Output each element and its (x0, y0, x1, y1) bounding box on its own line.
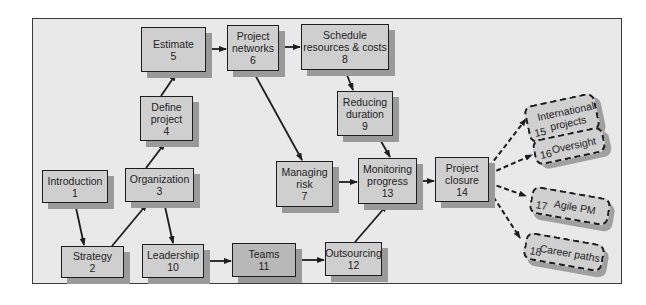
node-monitoring-progress: Monitoring progress 13 (358, 158, 417, 204)
node-label: Teams (249, 248, 280, 260)
node-label: Monitoring progress (359, 163, 416, 187)
node-number: 17 (535, 198, 549, 212)
node-label: Estimate (153, 38, 194, 50)
node-number: 11 (259, 260, 270, 272)
node-number: 4 (164, 125, 170, 137)
node-label: Project networks (228, 30, 278, 54)
node-label: Project closure (436, 162, 488, 186)
node-number: 8 (342, 53, 348, 65)
node-define-project: Define project 4 (140, 96, 193, 141)
node-number: 18 (529, 244, 543, 258)
node-project-closure: Project closure 14 (435, 157, 489, 202)
node-label: Leadership (147, 249, 199, 261)
node-organization: Organization 3 (125, 168, 194, 202)
node-strategy: Strategy 2 (61, 246, 124, 278)
node-introduction: Introduction 1 (42, 170, 108, 203)
node-number: 6 (250, 54, 256, 66)
node-leadership: Leadership 10 (142, 244, 204, 278)
node-number: 2 (90, 262, 96, 274)
node-number: 16 (539, 147, 553, 161)
node-label: Reducing duration (338, 96, 392, 120)
node-label: Outsourcing (325, 247, 382, 259)
node-managing-risk: Managing risk 7 (276, 161, 333, 207)
node-number: 5 (171, 50, 177, 62)
node-label: Introduction (48, 175, 103, 187)
node-number: 7 (302, 190, 308, 202)
node-label: Managing risk (277, 166, 332, 190)
node-number: 14 (456, 186, 468, 198)
node-number: 10 (167, 261, 179, 273)
node-teams: Teams 11 (232, 243, 296, 277)
node-reducing-duration: Reducing duration 9 (337, 91, 393, 136)
node-schedule-resources: Schedule resources & costs 8 (301, 24, 389, 70)
node-outsourcing: Outsourcing 12 (325, 242, 382, 276)
node-label: Strategy (73, 250, 112, 262)
node-label: Schedule resources & costs (302, 29, 388, 53)
node-project-networks: Project networks 6 (227, 25, 279, 71)
node-label: Organization (130, 173, 190, 185)
node-label: Define project (141, 101, 192, 125)
node-number: 1 (72, 187, 78, 199)
node-number: 9 (362, 120, 368, 132)
node-estimate: Estimate 5 (141, 27, 206, 72)
node-number: 3 (157, 185, 163, 197)
node-number: 13 (382, 187, 394, 199)
node-number: 12 (348, 259, 360, 271)
